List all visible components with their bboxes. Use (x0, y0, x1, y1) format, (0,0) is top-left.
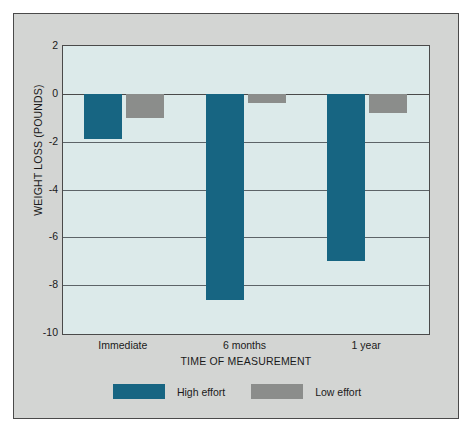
legend-label-low-effort: Low effort (315, 386, 361, 398)
gridline (63, 142, 429, 143)
chart-legend: High effort Low effort (14, 384, 460, 399)
bar-high-effort-1-year (327, 94, 365, 261)
x-axis-tick-labels: Immediate6 months1 year (62, 339, 430, 355)
gridline (63, 237, 429, 238)
y-axis-tick-label: -2 (18, 135, 58, 147)
y-axis-tick-label: 2 (18, 39, 58, 51)
legend-item-low-effort: Low effort (251, 384, 361, 399)
y-axis-tick-label: -10 (18, 326, 58, 338)
x-axis-tick-label: 6 months (185, 339, 305, 351)
x-axis-tick-label: 1 year (306, 339, 426, 351)
y-axis-tick-labels: 20-2-4-6-8-10 (14, 45, 58, 335)
legend-swatch-low-effort (251, 384, 303, 399)
bar-high-effort-6-months (206, 94, 244, 300)
legend-item-high-effort: High effort (113, 384, 225, 399)
gridline (63, 285, 429, 286)
bar-low-effort-6-months (248, 94, 286, 104)
figure-panel: WEIGHT LOSS (POUNDS) 20-2-4-6-8-10 Immed… (13, 13, 459, 419)
y-axis-tick-label: 0 (18, 87, 58, 99)
legend-label-high-effort: High effort (177, 386, 225, 398)
plot-canvas (63, 46, 429, 334)
bar-low-effort-immediate (126, 94, 164, 118)
x-axis-title: TIME OF MEASUREMENT (62, 355, 430, 367)
y-axis-tick-label: -4 (18, 183, 58, 195)
y-axis-tick-label: -8 (18, 278, 58, 290)
bar-high-effort-immediate (84, 94, 122, 139)
plot-area (62, 45, 430, 335)
y-axis-tick-label: -6 (18, 230, 58, 242)
bar-low-effort-1-year (369, 94, 407, 113)
x-axis-tick-label: Immediate (63, 339, 183, 351)
legend-swatch-high-effort (113, 384, 165, 399)
gridline (63, 190, 429, 191)
